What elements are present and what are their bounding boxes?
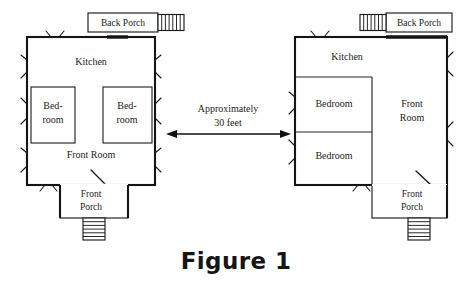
right-kitchen-label: Kitchen xyxy=(331,51,363,62)
left-bedroom-left-label-line2: room xyxy=(42,114,63,125)
floor-plan-svg: Back Porch Kitchen Bed- room xyxy=(0,0,472,290)
right-back-porch-label: Back Porch xyxy=(397,18,441,28)
left-house-group: Back Porch Kitchen Bed- room xyxy=(21,13,184,240)
right-front-porch-label-line1: Front xyxy=(402,189,423,199)
right-front-room-label-line2: Room xyxy=(400,112,425,123)
left-back-porch-steps-icon xyxy=(158,15,184,31)
left-kitchen-label: Kitchen xyxy=(75,56,107,67)
left-front-porch-steps-icon xyxy=(83,218,105,240)
left-front-door-swing xyxy=(91,170,106,185)
left-bedroom-left-label-line1: Bed- xyxy=(43,100,62,111)
dimension-arrow-head-right xyxy=(280,130,291,138)
dimension-annotation: Approximately 30 feet xyxy=(166,103,291,138)
right-back-porch-steps-icon xyxy=(360,15,386,31)
left-bedroom-right-label-line2: room xyxy=(116,114,137,125)
right-front-door-swing xyxy=(416,171,431,185)
left-bedroom-right-label-line1: Bed- xyxy=(117,100,136,111)
dimension-arrow-head-left xyxy=(166,130,177,138)
right-house-group: Back Porch Kitchen Be xyxy=(289,13,453,240)
right-house-wall-ticks xyxy=(289,31,453,191)
figure-container: Back Porch Kitchen Bed- room xyxy=(0,0,472,290)
dimension-label-line1: Approximately xyxy=(198,103,259,114)
right-house-outer-wall xyxy=(295,37,447,185)
right-bedroom-lower-label: Bedroom xyxy=(315,150,352,161)
right-bedroom-upper-label: Bedroom xyxy=(315,98,352,109)
left-front-room-label: Front Room xyxy=(67,149,116,160)
left-house-wall-ticks xyxy=(21,31,161,191)
right-front-room-label-line1: Front xyxy=(401,98,423,109)
left-front-porch-label-line2: Porch xyxy=(80,202,102,212)
dimension-label-line2: 30 feet xyxy=(214,117,242,128)
right-front-porch-steps-icon xyxy=(408,218,430,240)
left-back-porch-label: Back Porch xyxy=(101,18,145,28)
right-front-porch-label-line2: Porch xyxy=(401,202,423,212)
left-front-porch-label-line1: Front xyxy=(81,189,102,199)
figure-caption: Figure 1 xyxy=(181,248,292,274)
